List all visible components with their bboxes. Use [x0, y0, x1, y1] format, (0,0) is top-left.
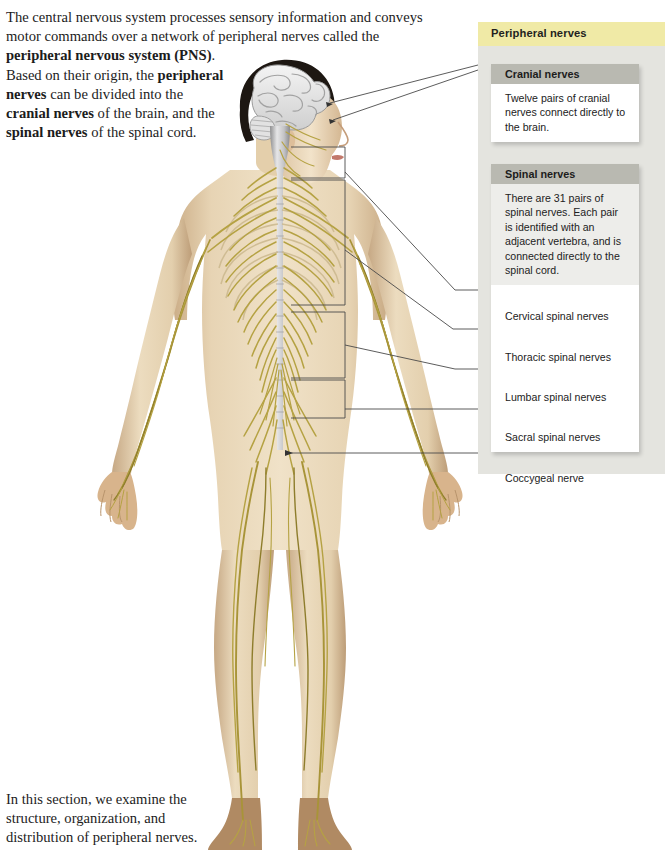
label-cervical-spinal-nerves[interactable]: Cervical spinal nerves: [505, 310, 609, 322]
outro-line-2: structure, organization, and: [6, 809, 256, 828]
card-spinal-nerves[interactable]: Spinal nerves There are 31 pairs of spin…: [491, 164, 639, 452]
label-lumbar-spinal-nerves[interactable]: Lumbar spinal nerves: [505, 391, 606, 403]
figure-body-group: [97, 60, 462, 850]
peripheral-nerves-title: Peripheral nerves: [491, 27, 587, 39]
left-leg-shape: [214, 550, 274, 798]
term-spinal-nerves: spinal nerves: [6, 124, 88, 140]
right-hand: [423, 472, 463, 530]
left-arm-shape: [112, 218, 192, 478]
card-cranial-body: Twelve pairs of cranial nerves connect d…: [491, 84, 639, 142]
label-sacral-spinal-nerves[interactable]: Sacral spinal nerves: [505, 431, 600, 443]
term-nerves: nerves: [6, 86, 47, 102]
intro-line-1: The central nervous system processes sen…: [6, 8, 468, 27]
outro-paragraph: In this section, we examine the structur…: [6, 790, 256, 848]
peripheral-nerves-panel: Peripheral nerves Cranial nerves Twelve …: [478, 22, 665, 474]
right-arm-shape: [368, 218, 448, 478]
right-leg-shape: [286, 550, 346, 798]
card-spinal-body: There are 31 pairs of spinal nerves. Eac…: [491, 184, 639, 285]
lips-shape: [332, 155, 344, 160]
peripheral-nerves-band: Peripheral nerves: [478, 22, 665, 46]
card-cranial-header: Cranial nerves: [491, 64, 639, 84]
head-group: [240, 60, 348, 184]
label-thoracic-spinal-nerves[interactable]: Thoracic spinal nerves: [505, 351, 611, 363]
outro-line-1: In this section, we examine the: [6, 790, 256, 809]
intro-line-2: motor commands over a network of periphe…: [6, 27, 468, 46]
human-body-nervous-system-illustration: [80, 58, 480, 850]
card-cranial-title: Cranial nerves: [505, 68, 579, 80]
left-hand: [97, 472, 137, 530]
outro-line-3: distribution of peripheral nerves.: [6, 828, 256, 847]
card-spinal-title: Spinal nerves: [505, 168, 575, 180]
card-cranial-nerves[interactable]: Cranial nerves Twelve pairs of cranial n…: [491, 64, 639, 142]
card-spinal-header: Spinal nerves: [491, 164, 639, 184]
label-coccygeal-nerve[interactable]: Coccygeal nerve: [505, 472, 584, 484]
